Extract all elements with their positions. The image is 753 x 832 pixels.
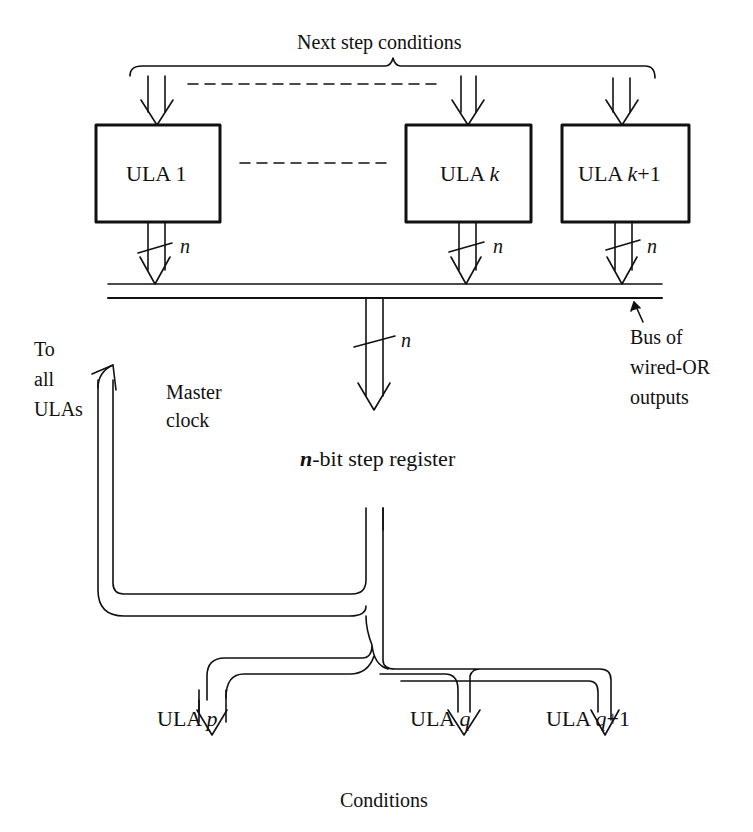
ula-label-prefix: ULA bbox=[440, 161, 490, 186]
ula-label-q-plus-1: ULA q+1 bbox=[546, 708, 630, 730]
register-label: n-bit step register bbox=[300, 448, 455, 470]
ula-label-prefix: ULA bbox=[410, 706, 460, 731]
ula-label-prefix: ULA bbox=[126, 161, 176, 186]
bus-width-label-ula-1: n bbox=[180, 236, 190, 256]
master-clock-label: Master clock bbox=[166, 378, 222, 434]
diagram-bottom-boxes bbox=[0, 0, 753, 832]
bottom-conditions-label: Conditions bbox=[340, 790, 428, 810]
ula-label-offset: +1 bbox=[637, 161, 660, 186]
ula-label-index: p bbox=[207, 706, 218, 731]
ula-label-k-plus-1: ULA k+1 bbox=[578, 163, 661, 185]
ula-label-index: q bbox=[596, 706, 607, 731]
bus-width-label-ula-k: n bbox=[493, 236, 503, 256]
ula-label-prefix: ULA bbox=[157, 706, 207, 731]
ula-label-k: ULA k bbox=[440, 163, 499, 185]
register-label-text: -bit step register bbox=[312, 446, 455, 471]
ula-label-q: ULA q bbox=[410, 708, 471, 730]
ula-label-index: 1 bbox=[176, 161, 187, 186]
register-label-width: n bbox=[300, 446, 312, 471]
ula-label-prefix: ULA bbox=[546, 706, 596, 731]
ula-label-offset: +1 bbox=[607, 706, 630, 731]
bus-annotation: Bus of wired-OR outputs bbox=[630, 322, 710, 412]
ula-label-index: k bbox=[628, 161, 638, 186]
ula-label-index: k bbox=[490, 161, 500, 186]
ula-label-prefix: ULA bbox=[578, 161, 628, 186]
top-conditions-label: Next step conditions bbox=[297, 32, 461, 52]
bus-width-label-ula-k-plus-1: n bbox=[647, 236, 657, 256]
feedback-annotation: To all ULAs bbox=[34, 334, 83, 424]
ula-label-p: ULA p bbox=[157, 708, 218, 730]
bus-width-label-register: n bbox=[401, 330, 411, 350]
ula-label-index: q bbox=[460, 706, 471, 731]
ula-label-1: ULA 1 bbox=[126, 163, 187, 185]
